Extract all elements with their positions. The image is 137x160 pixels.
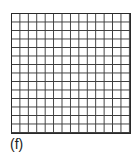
square-grid <box>11 13 131 134</box>
figure-label: (f) <box>10 137 23 151</box>
